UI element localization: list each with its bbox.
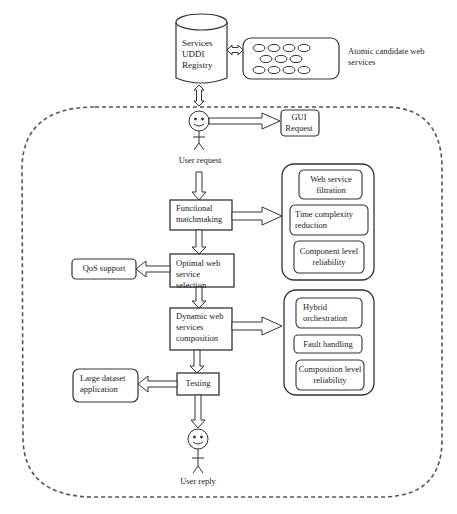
arrow-to-top-group bbox=[232, 207, 282, 225]
user-reply-label: User reply bbox=[168, 476, 228, 487]
user-request-label: User request bbox=[170, 155, 230, 166]
dynamic-composition-label: Dynamic web services composition bbox=[176, 311, 228, 344]
composition-reliability-label: Composition level reliability bbox=[297, 364, 363, 386]
arrow-to-qos bbox=[136, 261, 170, 277]
registry-label: Services UDDI Registry bbox=[182, 38, 224, 71]
atomic-services-label: Atomic candidate web services bbox=[348, 46, 428, 68]
qos-support-label: QoS support bbox=[72, 263, 136, 274]
arrow-to-gui bbox=[209, 113, 280, 129]
arrow-down-5 bbox=[191, 395, 205, 428]
arrow-down-2 bbox=[192, 230, 206, 254]
user-reply-figure-icon bbox=[188, 429, 208, 473]
web-service-filtration-label: Web service filtration bbox=[304, 174, 358, 196]
arrow-to-bottom-group bbox=[232, 317, 282, 335]
time-complexity-label: Time complexity reduction bbox=[295, 209, 367, 231]
vertical-bidirectional-arrow-icon bbox=[194, 85, 204, 106]
optimal-selection-label: Optimal web service selection bbox=[176, 258, 232, 291]
large-dataset-label: Large dataset application bbox=[80, 373, 134, 395]
functional-matchmaking-label: Functional matchmaking bbox=[176, 203, 230, 225]
component-reliability-label: Component level reliability bbox=[296, 246, 362, 268]
gui-request-label: GUI Request bbox=[284, 112, 314, 134]
hybrid-orchestration-label: Hybrid orchestration bbox=[303, 302, 359, 324]
arrow-down-1 bbox=[192, 172, 206, 200]
user-request-figure-icon bbox=[189, 111, 209, 150]
arrow-to-large-dataset bbox=[138, 376, 177, 392]
system-boundary bbox=[22, 107, 442, 497]
architecture-diagram: Services UDDI Registry Atomic candidate … bbox=[0, 0, 457, 514]
arrow-down-4 bbox=[190, 350, 204, 373]
bidirectional-arrow-icon bbox=[227, 45, 243, 55]
fault-handling-label: Fault handling bbox=[294, 339, 362, 350]
testing-label: Testing bbox=[177, 378, 219, 389]
